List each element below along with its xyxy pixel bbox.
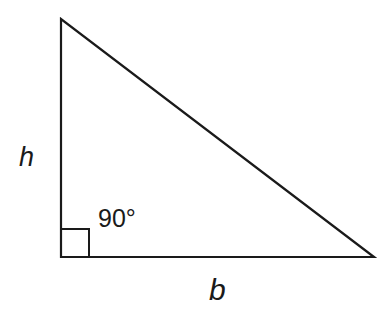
- right-triangle-diagram: h 90° b: [0, 0, 392, 313]
- angle-label: 90°: [98, 204, 136, 232]
- diagram-canvas: h 90° b: [0, 0, 392, 313]
- right-angle-marker-icon: [61, 229, 89, 257]
- base-label: b: [209, 273, 226, 306]
- height-label: h: [19, 142, 34, 172]
